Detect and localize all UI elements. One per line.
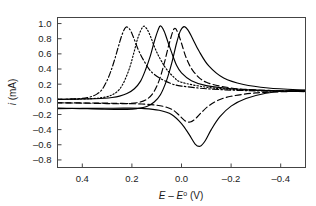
y-tick-label: –0.8 [33, 154, 52, 165]
x-tick-label: 0.2 [125, 173, 138, 184]
figure-container: 1.00.80.60.40.20.0–0.2–0.4–0.6–0.8 0.40.… [0, 0, 316, 206]
x-axis-title: E – Eo (V) [159, 190, 203, 202]
x-tick-label: –0.2 [222, 173, 241, 184]
y-tick-label: 0.6 [38, 48, 51, 59]
y-tick-label: 0.4 [38, 63, 51, 74]
y-axis-title: i (mA) [7, 79, 18, 106]
curve-curve-5 [58, 27, 306, 110]
chart-svg: 1.00.80.60.40.20.0–0.2–0.4–0.6–0.8 0.40.… [0, 0, 316, 206]
curve-curve-4-return [58, 91, 306, 122]
y-tick-label: 0.8 [38, 33, 51, 44]
data-curves [58, 26, 306, 147]
y-tick-label: –0.4 [33, 124, 52, 135]
x-tick-label: –0.4 [271, 173, 290, 184]
x-tick-label: 0.4 [76, 173, 89, 184]
x-tick-label: 0.0 [175, 173, 188, 184]
y-tick-label: 0.0 [38, 94, 51, 105]
x-axis-ticks: 0.40.20.0–0.2–0.4 [76, 164, 290, 184]
y-tick-label: –0.6 [33, 139, 52, 150]
y-tick-label: 0.2 [38, 79, 51, 90]
y-tick-label: –0.2 [33, 109, 52, 120]
y-tick-label: 1.0 [38, 18, 51, 29]
